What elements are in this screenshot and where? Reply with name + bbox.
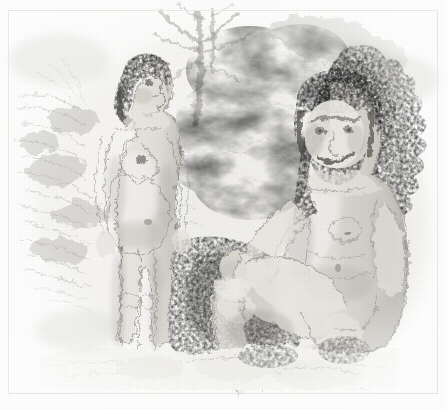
artwork-frame — [0, 0, 447, 409]
pencil-drawing — [0, 0, 447, 409]
